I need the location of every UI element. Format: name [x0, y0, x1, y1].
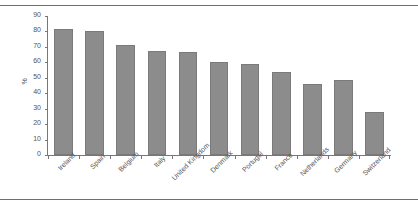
- x-axis-label-slot: France: [266, 157, 297, 203]
- bar: [148, 51, 167, 155]
- x-axis-label-slot: Netherlands: [297, 157, 328, 203]
- bar-series: [48, 16, 390, 155]
- bar-slot: [297, 16, 328, 155]
- bar: [179, 52, 198, 155]
- y-axis-tick: 10: [0, 140, 48, 141]
- x-axis-label-slot: Denmark: [203, 157, 234, 203]
- y-axis-tick: 80: [0, 31, 48, 32]
- bar: [303, 84, 322, 155]
- y-axis-tick-label: 0: [37, 150, 41, 158]
- chart-title: [0, 0, 418, 4]
- bar-slot: [359, 16, 390, 155]
- bar-slot: [235, 16, 266, 155]
- x-axis-labels: IrelandSpainBelgiumItalyUnited KingdomDe…: [48, 157, 390, 203]
- bar-slot: [266, 16, 297, 155]
- bar-slot: [141, 16, 172, 155]
- x-axis-label-slot: Portugal: [235, 157, 266, 203]
- y-axis-label: %: [21, 78, 28, 84]
- bar-slot: [79, 16, 110, 155]
- y-axis-tick-label: 80: [33, 26, 41, 34]
- bar: [210, 62, 229, 155]
- y-axis-tick-label: 90: [33, 11, 41, 19]
- bar: [334, 80, 353, 155]
- y-axis-tick: 70: [0, 47, 48, 48]
- y-axis-tick-label: 60: [33, 57, 41, 65]
- chart-figure: % 0102030405060708090 IrelandSpainBelgiu…: [0, 0, 418, 217]
- plot-area: [48, 16, 390, 155]
- y-axis-tick: 90: [0, 16, 48, 17]
- bar-slot: [172, 16, 203, 155]
- y-axis-tick: 20: [0, 124, 48, 125]
- x-axis-tick-label: Italy: [152, 154, 167, 169]
- y-axis-tick: 60: [0, 62, 48, 63]
- y-axis-tick-label: 30: [33, 104, 41, 112]
- y-axis-tick-label: 10: [33, 135, 41, 143]
- bar-slot: [203, 16, 234, 155]
- y-axis-tick: 50: [0, 78, 48, 79]
- x-axis-label-slot: Spain: [79, 157, 110, 203]
- bar-slot: [328, 16, 359, 155]
- bar: [365, 112, 384, 155]
- y-axis-tick: 40: [0, 93, 48, 94]
- bar-slot: [110, 16, 141, 155]
- bar: [116, 45, 135, 155]
- x-axis-label-slot: Belgium: [110, 157, 141, 203]
- bar-slot: [48, 16, 79, 155]
- y-axis-tick-label: 70: [33, 42, 41, 50]
- x-axis-label-slot: Germany: [328, 157, 359, 203]
- x-axis-label-slot: Ireland: [48, 157, 79, 203]
- bar: [85, 31, 104, 155]
- y-axis-tick: 0: [0, 155, 48, 156]
- y-axis-tick-label: 20: [33, 119, 41, 127]
- y-axis-tick: 30: [0, 109, 48, 110]
- bar: [54, 29, 73, 155]
- y-axis-tick-label: 50: [33, 73, 41, 81]
- y-axis-tick-label: 40: [33, 88, 41, 96]
- bar: [272, 72, 291, 155]
- bar: [241, 64, 260, 155]
- bottom-divider-rule: [0, 199, 418, 200]
- top-divider-rule: [0, 5, 418, 6]
- x-axis-label-slot: Switzerland: [359, 157, 390, 203]
- x-axis-label-slot: United Kingdom: [172, 157, 203, 203]
- x-axis-label-slot: Italy: [141, 157, 172, 203]
